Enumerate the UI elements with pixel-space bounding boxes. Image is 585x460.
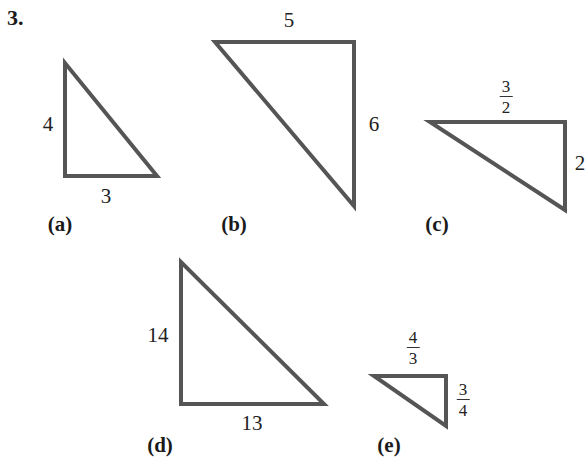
triangle-b-side-top: 5 (284, 10, 295, 31)
triangle-b (215, 42, 354, 206)
triangle-c-side-right: 2 (575, 153, 585, 174)
triangle-a (65, 63, 157, 176)
fraction-numerator: 4 (407, 329, 420, 347)
triangle-b-side-right: 6 (369, 114, 380, 135)
triangle-e (374, 376, 446, 426)
fraction-numerator: 3 (457, 381, 470, 399)
fraction-denominator: 2 (500, 97, 513, 116)
fraction-denominator: 3 (407, 348, 420, 367)
triangle-d-side-bottom: 13 (242, 413, 263, 434)
part-label-e: (e) (377, 435, 400, 456)
triangle-a-side-bottom: 3 (101, 186, 112, 207)
triangle-d-side-left: 14 (148, 325, 169, 346)
fraction-numerator: 3 (500, 78, 513, 96)
triangle-d (181, 262, 324, 404)
part-label-d: (d) (147, 435, 173, 456)
triangle-e-side-top-fraction: 4 3 (407, 329, 420, 367)
triangle-e-side-right-fraction: 3 4 (457, 381, 470, 419)
part-label-a: (a) (48, 214, 73, 235)
part-label-c: (c) (425, 214, 448, 235)
triangle-a-side-left: 4 (43, 114, 54, 135)
triangle-c-side-top-fraction: 3 2 (500, 78, 513, 116)
fraction-denominator: 4 (457, 400, 470, 419)
triangle-c (430, 122, 565, 210)
part-label-b: (b) (221, 214, 247, 235)
